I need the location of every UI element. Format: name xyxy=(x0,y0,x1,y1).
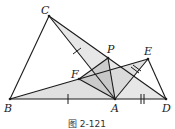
label-c: C xyxy=(41,4,50,17)
label-b: B xyxy=(3,102,12,115)
figure-caption: 图 2-121 xyxy=(68,119,106,129)
label-d: D xyxy=(161,102,171,115)
label-f: F xyxy=(70,68,79,81)
point-e xyxy=(147,58,150,61)
label-p: P xyxy=(106,43,115,56)
point-d xyxy=(165,98,168,101)
label-e: E xyxy=(143,45,152,58)
geometry-figure: C B A D E P F 图 2-121 xyxy=(0,0,175,129)
point-p xyxy=(107,57,110,60)
label-a: A xyxy=(110,102,119,115)
point-a xyxy=(114,98,117,101)
point-b xyxy=(9,98,12,101)
segment-bc xyxy=(10,16,49,99)
